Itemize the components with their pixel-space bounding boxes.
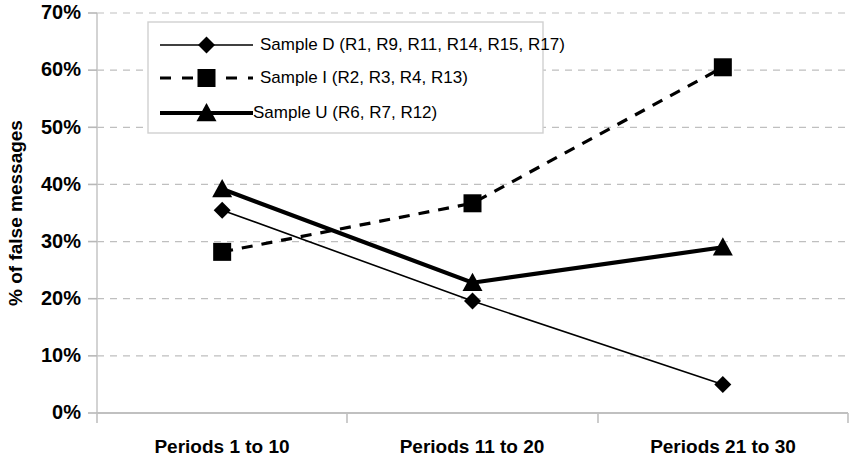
- y-tick-label-40: 40%: [41, 173, 81, 195]
- chart-figure: 70%60%50%40%30%20%10%0% Periods 1 to 10 …: [0, 0, 855, 466]
- x-axis-tick-labels: Periods 1 to 10 Periods 11 to 20 Periods…: [154, 436, 795, 457]
- data-point-square-0: [213, 243, 231, 261]
- legend-marker-square: [198, 69, 216, 87]
- x-tick-label-2: Periods 21 to 30: [650, 436, 796, 457]
- y-tick-label-50: 50%: [41, 116, 81, 138]
- y-tick-label-20: 20%: [41, 287, 81, 309]
- x-tick-label-0: Periods 1 to 10: [154, 436, 289, 457]
- y-tick-label-0: 0%: [52, 401, 81, 423]
- y-axis-title: % of false messages: [5, 120, 26, 306]
- data-point-square-2: [714, 58, 732, 76]
- legend-label-1: Sample I (R2, R3, R4, R13): [260, 68, 468, 87]
- chart-legend: Sample D (R1, R9, R11, R14, R15, R17)Sam…: [148, 22, 565, 133]
- legend-label-2: Sample U (R6, R7, R12): [253, 103, 437, 122]
- y-axis-ticks: 70%60%50%40%30%20%10%0%: [41, 1, 97, 423]
- y-tick-label-10: 10%: [41, 344, 81, 366]
- y-tick-label-70: 70%: [41, 1, 81, 23]
- line-chart-canvas: 70%60%50%40%30%20%10%0% Periods 1 to 10 …: [0, 0, 855, 466]
- x-tick-label-1: Periods 11 to 20: [400, 436, 545, 457]
- legend-label-0: Sample D (R1, R9, R11, R14, R15, R17): [260, 35, 565, 54]
- y-tick-label-60: 60%: [41, 58, 81, 80]
- x-axis-ticks: [97, 413, 848, 423]
- y-tick-label-30: 30%: [41, 230, 81, 252]
- data-point-square-1: [464, 194, 482, 212]
